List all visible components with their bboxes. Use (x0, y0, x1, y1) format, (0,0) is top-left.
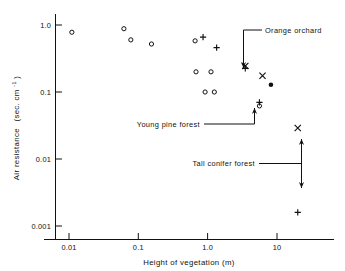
point-plus-0 (200, 34, 206, 40)
annotation-orange-orchard: Orange orchard (241, 26, 322, 68)
y-axis-title-units-sup: -1 (11, 81, 17, 87)
point-open-circle-1 (122, 27, 126, 31)
scatter-plot: 0.01 0.1 1.0 10 1.0 0.1 0.01 0.001 Heigh… (0, 0, 345, 271)
y-tick-label-3: 0.001 (32, 222, 52, 231)
y-ticks (56, 25, 63, 226)
x-ticks (69, 233, 277, 240)
point-open-circle-4 (193, 39, 197, 43)
annotation-tall-conifer-forest: Tall conifer forest (192, 139, 304, 188)
y-axis-title-units-tail: ) (12, 76, 21, 79)
young-pine-forest-leader (204, 108, 255, 124)
x-tick-label-2: 1.0 (202, 243, 213, 252)
orange-orchard-leader (244, 30, 263, 68)
point-open-circle-6 (209, 70, 213, 74)
point-open-circle-0 (70, 30, 74, 34)
point-cross-1 (259, 73, 265, 79)
point-open-circle-8 (212, 90, 216, 94)
tall-conifer-forest-label: Tall conifer forest (192, 159, 255, 168)
series-cross (242, 63, 301, 131)
y-tick-label-2: 0.01 (36, 155, 51, 164)
y-axis-title-units: (sec. cm (12, 89, 21, 121)
x-tick-label-3: 10 (273, 243, 282, 252)
orange-orchard-label: Orange orchard (265, 26, 322, 35)
y-tick-labels: 1.0 0.1 0.01 0.001 (32, 21, 52, 231)
y-tick-label-1: 0.1 (40, 88, 51, 97)
point-filled-circle-0 (269, 83, 274, 88)
figure-container: 0.01 0.1 1.0 10 1.0 0.1 0.01 0.001 Heigh… (0, 0, 345, 271)
annotation-young-pine-forest: Young pine forest (137, 108, 257, 129)
point-open-circle-7 (203, 90, 207, 94)
young-pine-forest-label: Young pine forest (137, 120, 200, 129)
y-axis-title: Air resistance (sec. cm -1 ) (9, 76, 21, 181)
svg-text:Air resistance (sec. cm: Air resistance (sec. cm -1 ) (9, 76, 21, 181)
point-plus-4 (295, 209, 301, 215)
point-open-circle-3 (149, 42, 153, 46)
point-plus-1 (214, 44, 220, 50)
point-cross-2 (295, 125, 301, 131)
x-tick-label-1: 0.1 (133, 243, 144, 252)
series-open-circle (70, 27, 262, 108)
x-axis-title: Height of vegetation (m) (143, 258, 235, 267)
x-tick-label-0: 0.01 (61, 243, 76, 252)
x-tick-labels: 0.01 0.1 1.0 10 (61, 243, 281, 252)
point-open-circle-2 (129, 38, 133, 42)
y-tick-label-0: 1.0 (40, 21, 51, 30)
series-filled-circle (269, 83, 274, 88)
y-axis-title-main: Air resistance (12, 128, 21, 180)
point-open-circle-5 (194, 70, 198, 74)
series-plus (200, 34, 301, 215)
